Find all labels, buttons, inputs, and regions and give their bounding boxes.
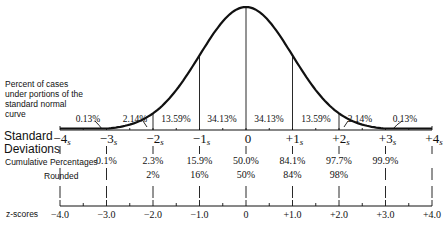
segment-percent-label: 0.13% bbox=[393, 114, 418, 124]
cumulative-value: 84.1% bbox=[280, 155, 306, 166]
sd-label-line1: Standard bbox=[4, 129, 53, 143]
segment-percent-label: 34.13% bbox=[207, 114, 236, 124]
sd-label-line2: Deviations bbox=[4, 142, 60, 156]
z-score-label: −4.0 bbox=[51, 209, 69, 220]
sd-tick-label: +1s bbox=[286, 131, 303, 147]
segment-percent-label: 13.59% bbox=[161, 114, 190, 124]
sd-tick-label: +2s bbox=[332, 131, 349, 147]
sd-row-label: Standard Deviations bbox=[4, 130, 60, 156]
sd-tick-label: +4s bbox=[425, 131, 442, 147]
z-score-label: 0 bbox=[244, 209, 249, 220]
cumulative-value: 50.0% bbox=[233, 155, 259, 166]
rounded-value: 2% bbox=[146, 169, 159, 180]
cumulative-value: 2.3% bbox=[143, 155, 164, 166]
sd-tick-label: +3s bbox=[379, 131, 396, 147]
z-score-label: −3.0 bbox=[97, 209, 115, 220]
sd-tick-label: −1s bbox=[193, 131, 210, 147]
segment-percent-label: 0.13% bbox=[76, 114, 101, 124]
z-score-label: +3.0 bbox=[376, 209, 394, 220]
segment-percent-label: 34.13% bbox=[254, 114, 283, 124]
cumulative-row-label: Cumulative Percentages bbox=[5, 157, 98, 167]
z-score-label: +4.0 bbox=[423, 209, 441, 220]
cumulative-value: 0.1% bbox=[96, 155, 117, 166]
z-axis-ticks bbox=[60, 200, 432, 206]
rounded-value: 84% bbox=[283, 169, 301, 180]
segment-percent-label: 13.59% bbox=[301, 114, 330, 124]
sd-tick-label: 0 bbox=[245, 131, 252, 147]
segment-percent-label: 2.14% bbox=[123, 114, 148, 124]
curve-description-text: Percent of cases under portions of the s… bbox=[5, 79, 83, 119]
z-score-label: +1.0 bbox=[283, 209, 301, 220]
cumulative-value: 99.9% bbox=[373, 155, 399, 166]
segment-percent-label: 2.14% bbox=[348, 114, 373, 124]
section-dividers bbox=[60, 7, 432, 130]
curve-description-label: Percent of cases under portions of the s… bbox=[5, 79, 83, 119]
z-score-label: −2.0 bbox=[144, 209, 162, 220]
rounded-value: 50% bbox=[237, 169, 255, 180]
sd-tick-label: −3s bbox=[100, 131, 117, 147]
rounded-value: 16% bbox=[190, 169, 208, 180]
z-score-label: −1.0 bbox=[190, 209, 208, 220]
rounded-value: 98% bbox=[330, 169, 348, 180]
sd-tick-label: −4s bbox=[53, 131, 70, 147]
sd-tick-label: −2s bbox=[146, 131, 163, 147]
cumulative-value: 97.7% bbox=[326, 155, 352, 166]
rounded-row-label: Rounded bbox=[44, 171, 79, 181]
cumulative-value: 15.9% bbox=[187, 155, 213, 166]
z-scores-row-label: z-scores bbox=[6, 209, 38, 219]
z-score-label: +2.0 bbox=[330, 209, 348, 220]
